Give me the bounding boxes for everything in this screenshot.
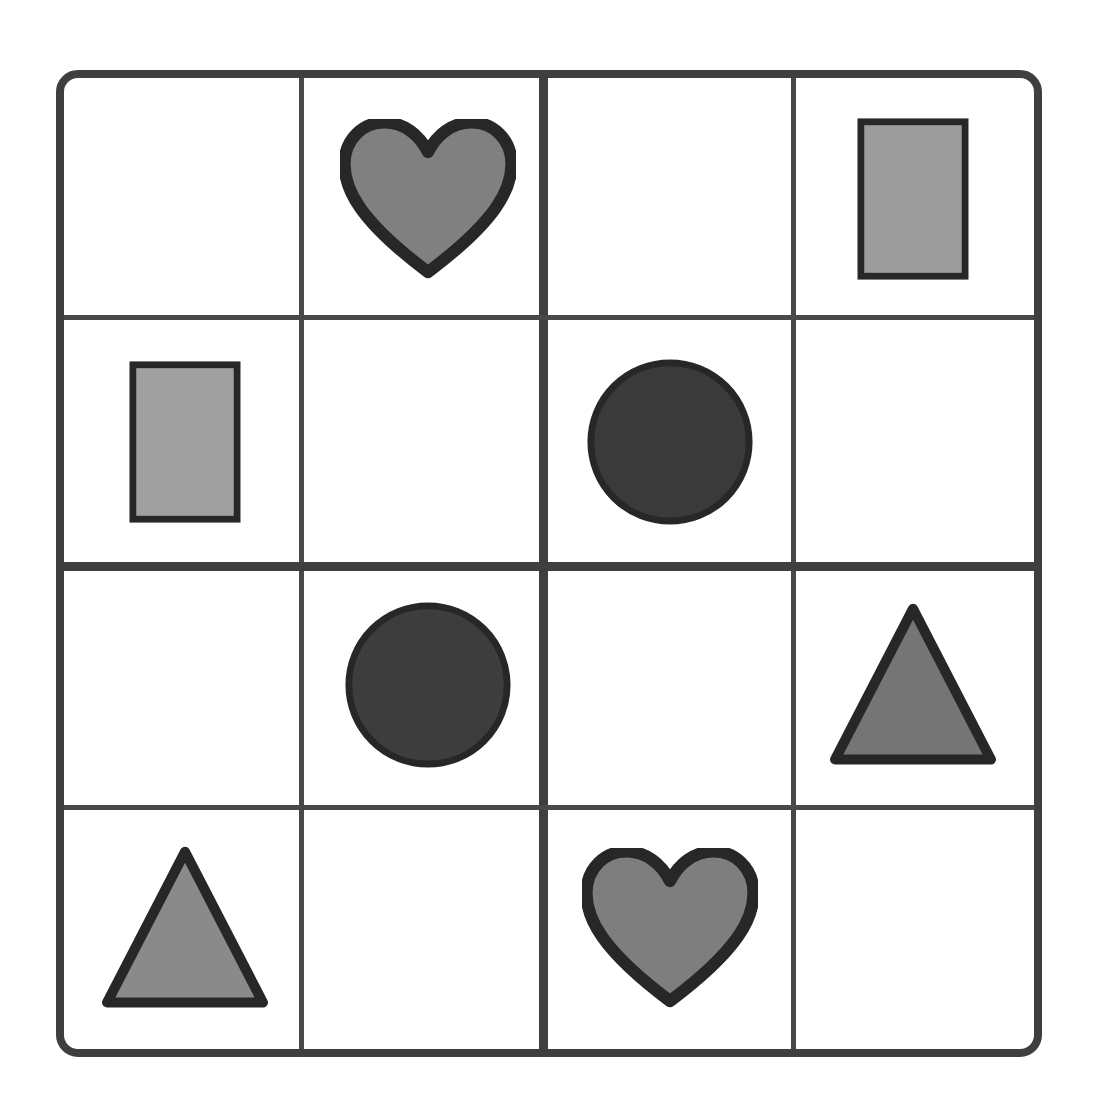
grid-cell-r2-c2[interactable]: empty (307, 321, 550, 564)
grid-cell-r2-c1[interactable] (64, 321, 307, 564)
triangle-icon (100, 845, 270, 1011)
grid-cell-r1-c4[interactable] (792, 78, 1035, 321)
grid-cell-r1-c3[interactable]: empty (549, 78, 792, 321)
circle-icon (342, 599, 514, 771)
grid-cell-r2-c4[interactable]: empty (792, 321, 1035, 564)
grid-cells: emptyemptyemptyemptyemptyemptyemptyempty (64, 78, 1034, 1049)
grid-cell-r3-c2[interactable] (307, 564, 550, 807)
grid-cell-r4-c2[interactable]: empty (307, 806, 550, 1049)
rectangle-icon (127, 359, 243, 525)
grid-cell-r1-c2[interactable] (307, 78, 550, 321)
grid-cell-r1-c1[interactable]: empty (64, 78, 307, 321)
grid-cell-r3-c3[interactable]: empty (549, 564, 792, 807)
circle-icon (584, 356, 756, 528)
heart-icon (582, 848, 758, 1008)
puzzle-board: emptyemptyemptyemptyemptyemptyemptyempty (56, 70, 1042, 1057)
rectangle-icon (855, 116, 971, 282)
triangle-icon (828, 602, 998, 768)
screenshot-canvas: emptyemptyemptyemptyemptyemptyemptyempty (0, 0, 1096, 1104)
grid-cell-r4-c4[interactable]: empty (792, 806, 1035, 1049)
grid-cell-r3-c4[interactable] (792, 564, 1035, 807)
grid-cell-r4-c1[interactable] (64, 806, 307, 1049)
heart-icon (340, 119, 516, 279)
grid-cell-r4-c3[interactable] (549, 806, 792, 1049)
grid-cell-r2-c3[interactable] (549, 321, 792, 564)
grid-cell-r3-c1[interactable]: empty (64, 564, 307, 807)
